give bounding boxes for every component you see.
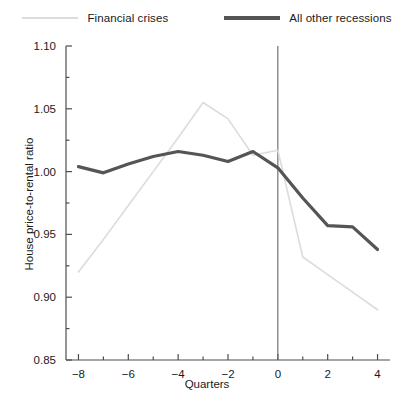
y-tick-label: 0.90 — [34, 291, 56, 303]
x-axis-ticks — [78, 354, 377, 360]
y-tick-label: 1.00 — [34, 166, 56, 178]
chart-figure: Financial crises All other recessions 0.… — [0, 0, 414, 405]
series-line-0 — [78, 103, 377, 310]
y-tick-label: 1.05 — [34, 103, 56, 115]
y-axis-ticks — [66, 46, 72, 360]
y-tick-label: 0.95 — [34, 228, 56, 240]
y-tick-label: 1.10 — [34, 40, 56, 52]
axis-spines — [66, 46, 390, 360]
y-tick-label: 0.85 — [34, 354, 56, 366]
y-axis-title: House price-to-rental ratio — [23, 89, 35, 319]
x-axis-title: Quarters — [0, 378, 414, 390]
plot-area: 0.850.900.951.001.051.10 −8−6−4−2024 — [0, 0, 414, 405]
y-tick-labels: 0.850.900.951.001.051.10 — [34, 40, 56, 366]
series-lines — [78, 103, 377, 310]
series-line-1 — [78, 152, 377, 250]
